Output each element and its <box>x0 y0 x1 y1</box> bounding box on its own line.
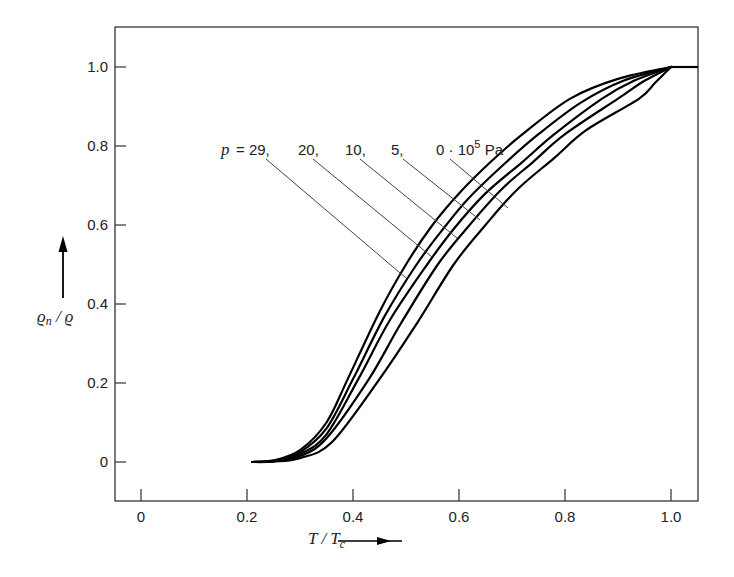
y-axis-title: ϱn / ϱ <box>37 236 74 328</box>
y-tick-label: 1.0 <box>87 58 108 75</box>
curve-series-3 <box>252 67 671 462</box>
y-axis: 00.20.40.60.81.0 <box>87 58 126 470</box>
label-0-base: 0 · 10 <box>436 141 474 158</box>
y-tick-label: 0 <box>100 453 108 470</box>
label-20: 20, <box>298 141 319 158</box>
curves <box>252 67 671 462</box>
leader-line-5 <box>403 159 480 220</box>
x-tick-label: 1.0 <box>661 508 682 525</box>
x-tick-label: 0.8 <box>555 508 576 525</box>
leader-lines <box>266 159 508 278</box>
label-0-unit: Pa <box>480 141 503 158</box>
y-tick-label: 0.8 <box>87 137 108 154</box>
label-p-symbol: p <box>220 140 230 159</box>
pressure-labels: p = 29, 20, 10, 5, 0 · 105 Pa <box>220 138 504 159</box>
chart: 00.20.40.60.81.0 00.20.40.60.81.0 p = 29… <box>0 0 734 577</box>
y-tick-label: 0.6 <box>87 216 108 233</box>
curve-series-1 <box>252 67 671 462</box>
label-29: = 29, <box>236 141 270 158</box>
curve-series-4 <box>252 67 671 462</box>
label-10: 10, <box>345 141 366 158</box>
x-tick-label: 0 <box>137 508 145 525</box>
y-tick-label: 0.4 <box>87 295 108 312</box>
x-tick-label: 0.6 <box>449 508 470 525</box>
x-axis-label: T / Tc <box>308 529 346 551</box>
leader-line-10 <box>360 159 457 238</box>
leader-line-20 <box>313 159 432 257</box>
curve-series-2 <box>252 67 671 462</box>
x-axis-title: T / Tc <box>308 529 402 551</box>
right-arrow-icon <box>377 537 391 545</box>
up-arrow-icon <box>59 236 68 252</box>
curve-series-0 <box>252 67 671 462</box>
y-axis-label: ϱn / ϱ <box>37 307 74 328</box>
label-5: 5, <box>391 141 404 158</box>
y-tick-label: 0.2 <box>87 374 108 391</box>
x-tick-label: 0.2 <box>237 508 258 525</box>
label-0: 0 · 105 Pa <box>436 138 504 158</box>
x-tick-label: 0.4 <box>343 508 364 525</box>
x-axis: 00.20.40.60.81.0 <box>137 489 682 525</box>
